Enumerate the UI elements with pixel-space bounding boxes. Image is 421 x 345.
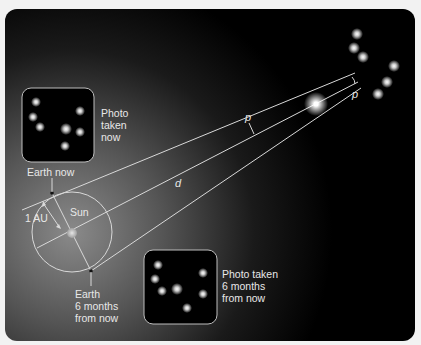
parallax-label-far: p	[351, 88, 358, 100]
diagram-canvas: Photo taken now Photo taken 6 months fro…	[0, 0, 421, 345]
sun-label: Sun	[70, 206, 89, 218]
earth-later-label-line2: 6 months	[75, 300, 118, 312]
photo-later-label-line2: 6 months	[222, 280, 265, 292]
photo-now-label-line1: Photo	[101, 107, 129, 119]
earth-later-label-line3: from now	[75, 312, 119, 324]
parallax-diagram: Photo taken now Photo taken 6 months fro…	[0, 0, 421, 345]
background-star	[357, 51, 369, 63]
photo-now	[22, 88, 94, 162]
background-star	[388, 60, 400, 72]
parallax-label-near: p	[244, 111, 251, 123]
photo-later-label-line1: Photo taken	[222, 268, 278, 280]
photo-later-label-line3: from now	[222, 292, 266, 304]
background-star	[372, 88, 384, 100]
background-star	[348, 42, 360, 54]
distance-label: d	[175, 177, 182, 189]
sun-icon	[67, 228, 77, 238]
photo-now-label-line3: now	[101, 131, 121, 143]
background-star	[351, 28, 363, 40]
photo-later	[144, 250, 217, 324]
au-label: 1 AU	[25, 212, 48, 224]
background-star	[381, 76, 393, 88]
earth-later-label-line1: Earth	[75, 288, 100, 300]
target-star-core	[314, 102, 319, 107]
earth-now-label: Earth now	[27, 166, 75, 178]
photo-now-label-line2: taken	[101, 119, 127, 131]
